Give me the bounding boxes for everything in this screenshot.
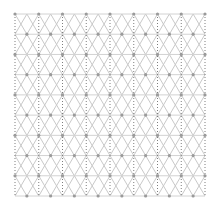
- lattice-vertex-dot: [168, 154, 171, 157]
- lattice-vertex-dot: [25, 194, 28, 197]
- pattern-canvas: [0, 0, 219, 209]
- lattice-vertex-dot: [97, 194, 100, 197]
- lattice-vertex-dot: [25, 33, 28, 36]
- lattice-vertex-dot: [13, 12, 16, 15]
- lattice-vertex-dot: [37, 134, 40, 137]
- lattice-vertex-dot: [61, 174, 64, 177]
- lattice-vertex-dot: [180, 53, 183, 56]
- lattice-vertex-dot: [192, 114, 195, 117]
- lattice-vertex-dot: [61, 53, 64, 56]
- lattice-vertex-dot: [144, 33, 147, 36]
- lattice-vertex-dot: [203, 93, 206, 96]
- lattice-vertex-dot: [192, 33, 195, 36]
- lattice-vertex-dot: [120, 114, 123, 117]
- lattice-vertex-dot: [85, 53, 88, 56]
- lattice-vertex-dot: [97, 73, 100, 76]
- lattice-vertex-dot: [25, 154, 28, 157]
- lattice-vertex-dot: [108, 174, 111, 177]
- lattice-vertex-dot: [132, 134, 135, 137]
- lattice-vertex-dot: [13, 53, 16, 56]
- lattice-vertex-dot: [73, 154, 76, 157]
- lattice-vertex-dot: [203, 174, 206, 177]
- lattice-vertex-dot: [132, 53, 135, 56]
- lattice-vertex-dot: [73, 33, 76, 36]
- lattice-vertex-dot: [168, 194, 171, 197]
- lattice-vertex-dot: [120, 33, 123, 36]
- lattice-vertex-dot: [192, 73, 195, 76]
- lattice-vertex-dot: [168, 114, 171, 117]
- lattice-vertex-dot: [25, 114, 28, 117]
- lattice-vertex-dot: [85, 134, 88, 137]
- lattice-vertex-dot: [203, 134, 206, 137]
- lattice-vertex-dot: [180, 93, 183, 96]
- lattice-vertex-dot: [168, 33, 171, 36]
- lattice-vertex-dot: [156, 93, 159, 96]
- lattice-vertex-dot: [132, 12, 135, 15]
- lattice-vertex-dot: [120, 154, 123, 157]
- lattice-vertex-dot: [37, 174, 40, 177]
- lattice-vertex-dot: [156, 53, 159, 56]
- lattice-vertex-dot: [73, 194, 76, 197]
- lattice-vertex-dot: [144, 194, 147, 197]
- lattice-vertex-dot: [97, 114, 100, 117]
- lattice-vertex-dot: [85, 93, 88, 96]
- lattice-vertex-dot: [49, 114, 52, 117]
- lattice-vertex-dot: [13, 93, 16, 96]
- lattice-vertex-dot: [49, 154, 52, 157]
- lattice-vertex-dot: [73, 73, 76, 76]
- lattice-vertex-dot: [144, 73, 147, 76]
- lattice-vertex-dot: [203, 53, 206, 56]
- lattice-vertex-dot: [132, 93, 135, 96]
- lattice-vertex-dot: [49, 33, 52, 36]
- lattice-vertex-dot: [192, 154, 195, 157]
- lattice-vertex-dot: [120, 73, 123, 76]
- lattice-vertex-dot: [203, 12, 206, 15]
- lattice-vertex-dot: [180, 174, 183, 177]
- lattice-vertex-dot: [61, 93, 64, 96]
- lattice-vertex-dot: [25, 73, 28, 76]
- lattice-vertex-dot: [37, 93, 40, 96]
- lattice-vertex-dot: [97, 33, 100, 36]
- lattice-vertex-dot: [192, 194, 195, 197]
- lattice-vertex-dot: [61, 12, 64, 15]
- lattice-vertex-dot: [49, 73, 52, 76]
- lattice-vertex-dot: [37, 53, 40, 56]
- lattice-vertex-dot: [180, 12, 183, 15]
- lattice-vertex-dot: [108, 93, 111, 96]
- lattice-vertex-dot: [156, 174, 159, 177]
- lattice-vertex-dot: [13, 174, 16, 177]
- lattice-vertex-dot: [61, 134, 64, 137]
- lattice-vertex-dot: [180, 134, 183, 137]
- lattice-vertex-dot: [156, 134, 159, 137]
- lattice-vertex-dot: [156, 12, 159, 15]
- lattice-vertex-dot: [37, 12, 40, 15]
- lattice-vertex-dot: [108, 53, 111, 56]
- lattice-vertex-dot: [168, 73, 171, 76]
- lattice-vertex-dot: [108, 134, 111, 137]
- lattice-vertex-dot: [85, 12, 88, 15]
- lattice-vertex-dot: [120, 194, 123, 197]
- lattice-vertex-dot: [144, 154, 147, 157]
- lattice-vertex-dot: [108, 12, 111, 15]
- lattice-vertex-dot: [144, 114, 147, 117]
- lattice-vertex-dot: [85, 174, 88, 177]
- lattice-vertex-dot: [132, 174, 135, 177]
- lattice-vertex-dot: [49, 194, 52, 197]
- lattice-vertex-dot: [73, 114, 76, 117]
- lattice-vertex-dot: [97, 154, 100, 157]
- lattice-figure: [0, 0, 219, 209]
- lattice-vertex-dot: [13, 134, 16, 137]
